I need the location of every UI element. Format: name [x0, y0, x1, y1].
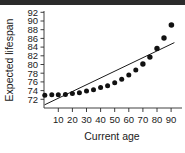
x-tick-label: 40 [95, 114, 106, 125]
y-axis-title: Expected lifespan [3, 18, 15, 101]
x-tick-label: 80 [152, 114, 163, 125]
data-point [154, 46, 159, 51]
x-tick-label: 90 [166, 114, 177, 125]
x-tick-label: 70 [138, 114, 149, 125]
data-point [119, 77, 124, 82]
data-point [140, 61, 145, 66]
x-tick-label: 30 [81, 114, 92, 125]
data-point [161, 35, 166, 40]
x-tick-label: 20 [67, 114, 78, 125]
x-tick-marks [58, 108, 171, 112]
y-tick-label: 72 [27, 94, 38, 105]
data-point [126, 72, 131, 77]
data-point [56, 92, 61, 97]
chart-figure: 92 90 88 86 84 82 80 78 76 74 72 10 [0, 0, 185, 153]
data-point [112, 80, 117, 85]
data-point [98, 85, 103, 90]
y-tick-marks [41, 12, 45, 99]
scatter-plot-svg: 92 90 88 86 84 82 80 78 76 74 72 10 [0, 0, 185, 153]
y-tick-labels: 92 90 88 86 84 82 80 78 76 74 72 [27, 7, 38, 105]
data-point-group [42, 22, 174, 98]
data-point [84, 89, 89, 94]
data-point [147, 54, 152, 59]
data-point [70, 91, 75, 96]
data-point [63, 92, 68, 97]
data-point [77, 90, 82, 95]
x-tick-labels: 10 20 30 40 50 60 70 80 90 [53, 114, 176, 125]
bottom-edge [0, 151, 185, 153]
x-tick-label: 60 [124, 114, 135, 125]
data-point-max [169, 22, 175, 28]
data-point [105, 83, 110, 88]
data-point [91, 87, 96, 92]
data-point [133, 68, 138, 73]
data-point [49, 92, 54, 97]
x-tick-label: 10 [53, 114, 64, 125]
data-point [42, 93, 47, 98]
x-axis-title: Current age [84, 130, 140, 142]
x-tick-label: 50 [109, 114, 120, 125]
